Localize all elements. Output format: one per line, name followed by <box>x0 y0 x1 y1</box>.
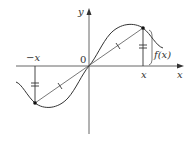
y-axis-arrow-icon <box>87 8 92 15</box>
x-axis <box>16 64 184 69</box>
odd-function-diagram: y x 0 x −x f(x) <box>0 0 194 141</box>
y-axis-label: y <box>77 6 84 17</box>
chord-tick-left <box>58 83 62 89</box>
x-tick-label: x <box>141 69 147 80</box>
x-axis-arrow-icon <box>177 64 184 69</box>
fx-label: f(x) <box>153 49 171 60</box>
point-neg-x-dot <box>33 101 37 105</box>
origin-label: 0 <box>80 54 86 65</box>
point-x-dot <box>141 26 145 30</box>
y-axis <box>87 8 92 134</box>
x-axis-label: x <box>177 69 183 80</box>
neg-x-tick-label: −x <box>26 52 40 63</box>
